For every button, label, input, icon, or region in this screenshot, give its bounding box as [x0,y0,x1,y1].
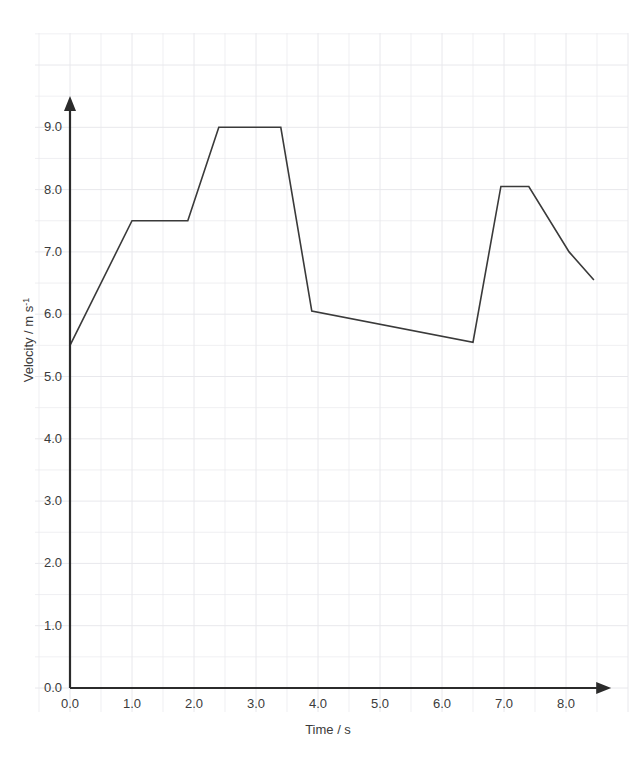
x-tick-label: 5.0 [371,696,389,711]
x-tick-label: 7.0 [495,696,513,711]
y-axis-title-main: Velocity / m s [21,305,36,382]
y-tick-label: 8.0 [44,182,62,197]
y-tick-label: 6.0 [44,306,62,321]
y-tick-label: 5.0 [44,369,62,384]
x-tick-label: 6.0 [433,696,451,711]
y-tick-label: 0.0 [44,680,62,695]
x-tick-label: 2.0 [185,696,203,711]
x-axis-title: Time / s [305,722,351,737]
x-tick-labels: 0.01.02.03.04.05.06.07.08.0 [61,696,575,711]
y-tick-label: 2.0 [44,555,62,570]
y-tick-label: 7.0 [44,244,62,259]
y-axis-title-group: Velocity / m s-1 [21,298,36,383]
x-tick-label: 3.0 [247,696,265,711]
y-tick-label: 1.0 [44,618,62,633]
y-tick-label: 9.0 [44,119,62,134]
x-tick-label: 8.0 [557,696,575,711]
velocity-time-chart-figure: 0.01.02.03.04.05.06.07.08.0 0.01.02.03.0… [0,0,644,758]
y-axis-title: Velocity / m s-1 [21,298,36,383]
chart-background [0,0,644,758]
y-axis-title-superscript: -1 [21,298,31,306]
y-tick-label: 3.0 [44,493,62,508]
chart-canvas: 0.01.02.03.04.05.06.07.08.0 0.01.02.03.0… [0,0,644,758]
x-tick-label: 1.0 [123,696,141,711]
y-tick-label: 4.0 [44,431,62,446]
x-tick-label: 0.0 [61,696,79,711]
x-tick-label: 4.0 [309,696,327,711]
